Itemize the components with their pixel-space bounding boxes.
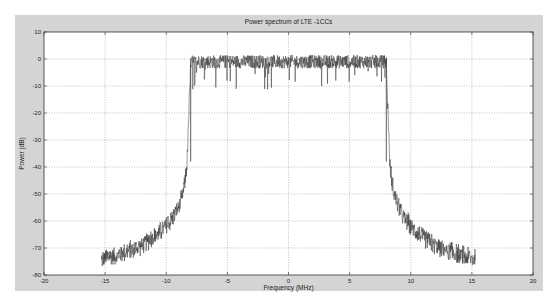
y-tick-label: -20 <box>32 110 41 116</box>
y-tick-label: 10 <box>34 29 41 35</box>
y-tick-label: -80 <box>32 272 41 278</box>
y-tick-label: -70 <box>32 245 41 251</box>
y-tick-label: -60 <box>32 218 41 224</box>
x-tick-label: -10 <box>162 278 171 284</box>
y-tick-label: -30 <box>32 137 41 143</box>
x-tick-label: 5 <box>348 278 352 284</box>
y-axis-label: Power (dB) <box>18 137 26 170</box>
x-tick-label: 15 <box>469 278 476 284</box>
x-tick-label: -20 <box>40 278 49 284</box>
chart-title: Power spectrum of LTE -1CCs <box>245 18 333 26</box>
x-tick-label: 20 <box>530 278 537 284</box>
y-tick-label: -40 <box>32 164 41 170</box>
y-tick-label: -10 <box>32 83 41 89</box>
x-tick-label: 10 <box>407 278 414 284</box>
x-tick-label: -5 <box>225 278 231 284</box>
y-tick-label: 0 <box>38 56 42 62</box>
x-axis-label: Frequency (MHz) <box>263 284 313 292</box>
chart: -20-15-10-505101520 100-10-20-30-40-50-6… <box>0 0 555 303</box>
y-tick-label: -50 <box>32 191 41 197</box>
plot-area <box>44 32 533 275</box>
x-tick-label: -15 <box>101 278 110 284</box>
